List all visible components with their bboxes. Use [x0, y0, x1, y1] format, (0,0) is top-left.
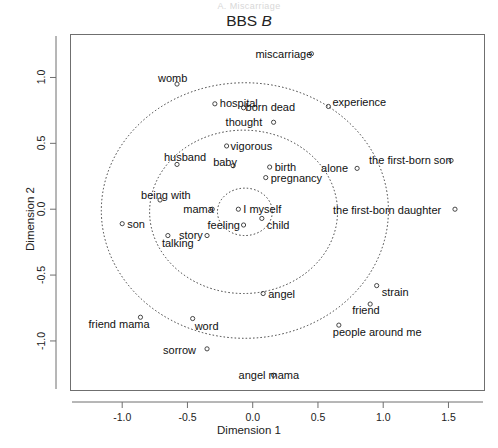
point-label: husband [164, 152, 206, 163]
x-tick-label: 0.0 [245, 411, 260, 423]
y-tick-label: 1.0 [35, 62, 47, 92]
point-label: feeling [208, 220, 240, 231]
point-label: friend mama [88, 319, 149, 330]
point-label: vigorous [231, 141, 273, 152]
point-label: son [127, 219, 145, 230]
cropped-header-text: A. Miscarriage [0, 0, 498, 12]
point-label: child [267, 220, 290, 231]
point-label: people around me [333, 327, 422, 338]
y-tick-label: 0.0 [35, 194, 47, 224]
point-label: the first-born daughter [333, 205, 441, 216]
x-tick-label: -1.0 [113, 411, 131, 423]
y-axis-title: Dimension 2 [24, 159, 36, 279]
point-label: womb [158, 73, 187, 84]
x-tick-label: -0.5 [178, 411, 196, 423]
point-label: thought [226, 117, 263, 128]
point-label: experience [332, 97, 386, 108]
point-label: friend [352, 305, 380, 316]
point-label: born dead [246, 102, 296, 113]
point-label: mama [183, 204, 214, 215]
chart-title: BBS B [0, 12, 498, 30]
point-label: pregnancy [271, 173, 322, 184]
point-label: I myself [243, 204, 281, 215]
point-label: baby [213, 157, 237, 168]
y-tick-label: 0.5 [35, 128, 47, 158]
chart-page: A. Miscarriage BBS B miscarriagewombhosp… [0, 0, 498, 448]
point-label: talking [162, 238, 194, 249]
chart-title-main: BBS [226, 12, 257, 29]
x-tick-label: 0.5 [311, 411, 326, 423]
y-tick-label: -1.0 [35, 326, 47, 356]
point-label: angel [268, 289, 295, 300]
point-label: alone [321, 163, 348, 174]
point-label: word [195, 321, 219, 332]
x-tick-label: 1.5 [441, 411, 456, 423]
point-label: angel mama [239, 370, 300, 381]
x-tick-label: 1.0 [376, 411, 391, 423]
chart-title-italic: B [261, 12, 271, 29]
x-axis-title: Dimension 1 [0, 424, 498, 436]
point-label: being with [141, 190, 191, 201]
point-label: the first-born son [369, 155, 452, 166]
point-label: strain [382, 287, 409, 298]
point-label: miscarriage [255, 49, 312, 60]
y-tick-label: -0.5 [35, 260, 47, 290]
point-label: sorrow [163, 345, 196, 356]
